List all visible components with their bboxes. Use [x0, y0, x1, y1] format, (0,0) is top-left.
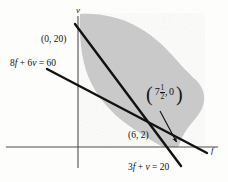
equation-label-8f-6v-60: 8f + 6v = 60: [10, 59, 56, 69]
point-comma: ,: [165, 87, 168, 97]
f-axis-label: f: [211, 146, 214, 155]
eq2-rhs: 20: [160, 162, 170, 172]
eq1-plus: +: [17, 58, 27, 68]
point-label-6-2: (6, 2): [128, 131, 149, 141]
mixed-number-fraction: 1 2: [160, 84, 165, 100]
point-label-0-20: (0, 20): [41, 35, 66, 45]
eq2-equals: =: [150, 162, 160, 172]
mixed-number-whole: 7: [155, 87, 160, 97]
eq1-equals: =: [36, 58, 46, 68]
graph-canvas: [0, 0, 228, 182]
equation-label-3f-v-20: 3f + v = 20: [128, 163, 169, 173]
shaded-feasible-region: [80, 14, 204, 147]
eq1-rhs: 60: [47, 58, 57, 68]
point-label-7-and-half-0: ( 7 1 2 , 0 ): [146, 84, 183, 100]
fraction-denominator: 2: [160, 92, 165, 101]
eq2-plus: +: [135, 162, 145, 172]
graph-figure: v f (0, 20) 8f + 6v = 60 ( 7 1 2 , 0 ) (…: [0, 0, 228, 182]
point-second-coord: 0: [169, 87, 174, 97]
fraction-numerator: 1: [160, 84, 165, 92]
v-axis-label: v: [76, 6, 80, 15]
